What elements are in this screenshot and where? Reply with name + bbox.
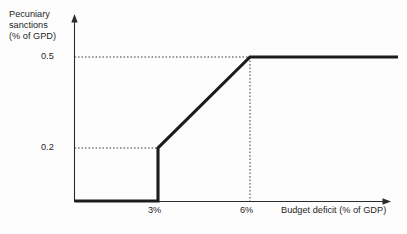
chart-figure: Pecuniarysanctions(% of GPD) Budget defi… <box>0 0 407 234</box>
y-axis-title-line-2: sanctions <box>9 20 48 30</box>
x-axis-arrow-icon <box>383 198 392 205</box>
data-series-line <box>75 57 399 201</box>
x-axis-tick-label-6pct: 6% <box>240 205 253 216</box>
y-axis-tick-label-0.5: 0.5 <box>41 51 54 62</box>
y-axis-arrow-icon <box>71 14 77 23</box>
y-axis-tick-label-0.2: 0.2 <box>41 142 54 153</box>
x-axis-tick-label-3pct: 3% <box>148 205 161 216</box>
x-axis-title: Budget deficit (% of GDP) <box>281 205 386 216</box>
y-axis-title: Pecuniarysanctions(% of GPD) <box>9 9 56 42</box>
y-axis-title-line-1: Pecuniary <box>9 9 50 19</box>
chart-canvas <box>0 0 407 234</box>
y-axis-title-line-3: (% of GPD) <box>9 31 56 41</box>
